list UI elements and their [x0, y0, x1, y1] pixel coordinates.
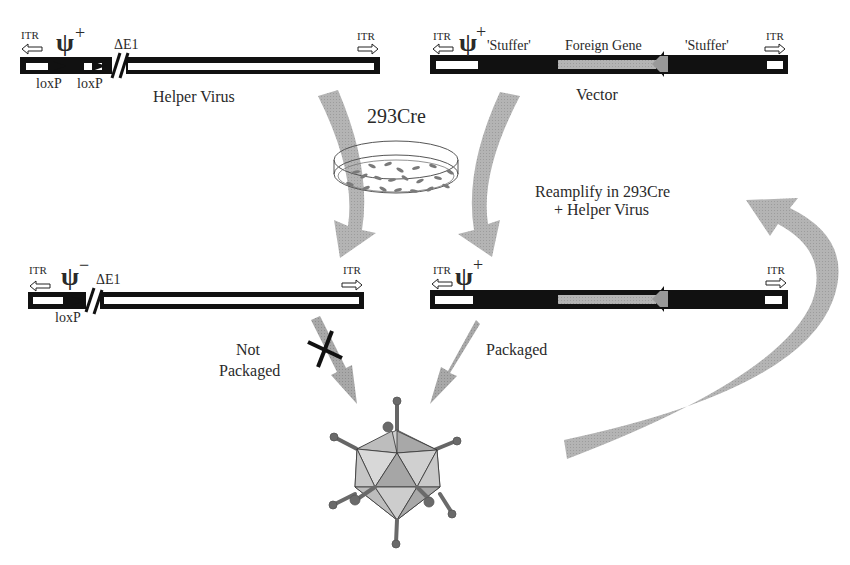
psi-sign: −	[79, 256, 89, 274]
diagram-graphics	[0, 0, 850, 565]
itr-right-arrow-icon	[765, 44, 785, 54]
loxp-label: loxP	[55, 310, 81, 326]
reamplify-label-line2: + Helper Virus	[554, 201, 649, 219]
itr-label: ITR	[357, 30, 375, 42]
itr-label: ITR	[433, 264, 451, 276]
vector-genome-copy	[430, 286, 788, 312]
packaged-label: Packaged	[486, 341, 547, 359]
loxp-label: loxP	[36, 76, 62, 92]
psi-sign: +	[75, 24, 85, 42]
delta-e1-label: ΔE1	[114, 37, 139, 53]
itr-left-arrow-icon	[30, 281, 50, 291]
stuffer-label-right: 'Stuffer'	[685, 38, 729, 54]
psi-symbol: ψ	[459, 30, 477, 56]
curved-arrow-right	[458, 92, 520, 257]
helper-virus-title: Helper Virus	[153, 88, 235, 106]
itr-label: ITR	[29, 264, 47, 276]
itr-right-arrow-icon	[766, 278, 786, 288]
itr-left-arrow-icon	[22, 44, 42, 54]
itr-label: ITR	[433, 30, 451, 42]
packaged-arrow	[430, 320, 480, 404]
vector-title: Vector	[576, 86, 618, 104]
psi-symbol: ψ	[56, 30, 74, 56]
psi-sign: +	[473, 256, 483, 274]
itr-label: ITR	[767, 264, 785, 276]
stuffer-label-left: 'Stuffer'	[487, 38, 531, 54]
delta-e1-label: ΔE1	[96, 272, 121, 288]
vector-genome	[430, 51, 788, 77]
itr-label: ITR	[21, 29, 39, 41]
itr-left-arrow-icon	[433, 44, 453, 54]
psi-sign: +	[476, 23, 486, 41]
not-packaged-arrow	[308, 316, 357, 404]
reamplify-curved-arrow	[564, 198, 839, 459]
itr-right-arrow-icon	[342, 280, 362, 290]
psi-symbol: ψ	[61, 264, 79, 290]
not-packaged-label-line2: Packaged	[219, 362, 280, 380]
psi-symbol: ψ	[455, 264, 473, 290]
helper-virus-genome	[20, 53, 380, 78]
cell-line-label: 293Cre	[367, 105, 426, 128]
foreign-gene-label: Foreign Gene	[565, 38, 642, 54]
not-packaged-label-line1: Not	[236, 341, 260, 359]
loxp-label: loxP	[77, 76, 103, 92]
itr-label: ITR	[766, 30, 784, 42]
helper-dependent-adenovirus-diagram: ITR ψ + ΔE1 ITR loxP loxP Helper Virus I…	[0, 0, 850, 565]
itr-right-arrow-icon	[358, 44, 378, 54]
itr-left-arrow-icon	[432, 279, 452, 289]
reamplify-label-line1: Reamplify in 293Cre	[535, 183, 670, 201]
itr-label: ITR	[343, 264, 361, 276]
virus-capsid-icon	[329, 397, 461, 548]
